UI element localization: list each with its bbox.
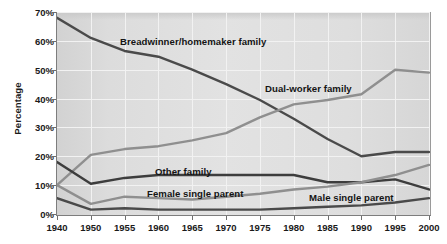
series-line [57, 70, 429, 185]
x-axis-line [56, 215, 431, 216]
x-tick-mark [57, 216, 58, 220]
y-tick-mark [52, 12, 56, 13]
x-tick-mark [260, 216, 261, 220]
y-tick-label: 20% [22, 151, 54, 162]
x-tick-label: 2000 [407, 222, 447, 233]
y-tick-label: 60% [22, 35, 54, 46]
series-label: Female single parent [147, 188, 243, 199]
y-tick-label: 30% [22, 122, 54, 133]
chart-figure: Percentage 0%10%20%30%40%50%60%70% 19401… [0, 0, 447, 244]
y-tick-mark [52, 99, 56, 100]
x-tick-mark [192, 216, 193, 220]
y-tick-mark [52, 156, 56, 157]
series-label: Male single parent [309, 192, 394, 203]
x-tick-mark [294, 216, 295, 220]
x-axis-tick-labels: 1940195019551960196519701975198019851990… [0, 222, 447, 240]
x-tick-mark [158, 216, 159, 220]
x-tick-mark [226, 216, 227, 220]
x-tick-mark [361, 216, 362, 220]
y-tick-label: 10% [22, 180, 54, 191]
y-tick-label: 70% [22, 7, 54, 18]
y-tick-mark [52, 127, 56, 128]
y-tick-label: 50% [22, 64, 54, 75]
y-tick-label: 0% [22, 209, 54, 220]
y-tick-mark [52, 214, 56, 215]
y-tick-mark [52, 185, 56, 186]
x-tick-mark [91, 216, 92, 220]
x-tick-mark [395, 216, 396, 220]
x-tick-mark [328, 216, 329, 220]
y-axis-title: Percentage [12, 59, 23, 159]
y-tick-mark [52, 70, 56, 71]
x-tick-mark [125, 216, 126, 220]
series-label: Other family [155, 166, 212, 177]
x-tick-mark [429, 216, 430, 220]
series-label: Breadwinner/homemaker family [120, 36, 266, 47]
series-line [57, 162, 429, 189]
y-tick-label: 40% [22, 93, 54, 104]
series-label: Dual-worker family [265, 83, 352, 94]
y-axis-line [56, 12, 57, 216]
y-tick-mark [52, 41, 56, 42]
y-axis-tick-labels: 0%10%20%30%40%50%60%70% [22, 0, 54, 244]
